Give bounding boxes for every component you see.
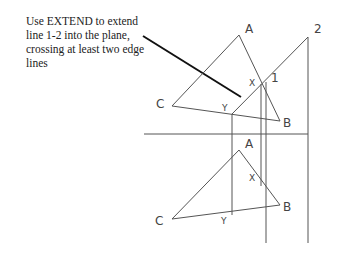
front-label-a: A: [245, 137, 254, 151]
top-view-line-1-2: [232, 37, 308, 114]
front-label-y: Y: [220, 216, 227, 226]
top-label-x: X: [249, 78, 255, 88]
leader-line: [143, 36, 241, 97]
top-label-2: 2: [314, 22, 322, 36]
front-view-triangle-abc: [172, 150, 280, 219]
top-label-b: B: [283, 116, 291, 130]
top-label-y: Y: [221, 103, 228, 113]
front-label-b: B: [283, 200, 291, 214]
top-label-c: C: [156, 97, 164, 111]
top-label-1: 1: [271, 71, 279, 85]
projection-diagram: A B C X Y 1 2 A B C X Y: [0, 0, 348, 265]
front-label-x: X: [249, 173, 255, 183]
top-label-a: A: [245, 22, 254, 36]
front-label-c: C: [155, 214, 163, 228]
